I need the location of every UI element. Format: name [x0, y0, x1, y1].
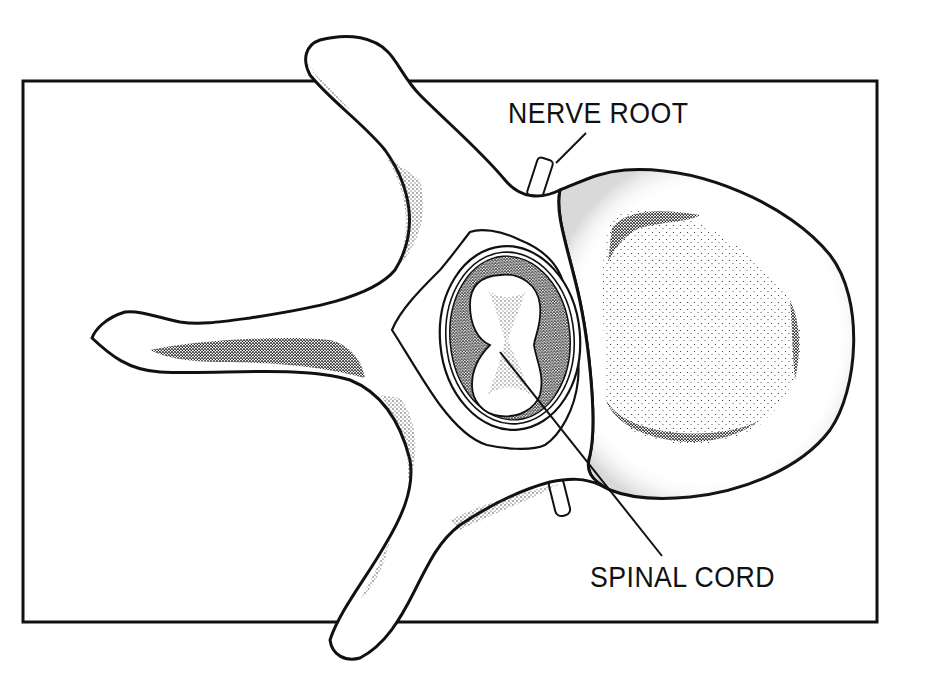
nerve-root-label: NERVE ROOT [508, 99, 689, 128]
nerve-root-leader-line [556, 133, 586, 163]
vertebra-diagram [0, 0, 945, 677]
spinal-cord-label: SPINAL CORD [590, 563, 775, 592]
